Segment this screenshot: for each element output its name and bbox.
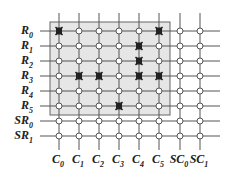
crosspoint-node-icon: [56, 43, 62, 49]
crosspoint-node-icon: [96, 43, 102, 49]
crosspoint-node-icon: [56, 133, 62, 139]
crosspoint-node-icon: [76, 103, 82, 109]
shaded-region: [50, 22, 170, 115]
crosspoint-node-icon: [197, 88, 203, 94]
crosspoint-node-icon: [76, 43, 82, 49]
faulty-crosspoint-icon: [136, 72, 143, 80]
crosspoint-node-icon: [96, 103, 102, 109]
crosspoint-node-icon: [177, 43, 183, 49]
crosspoint-node-icon: [56, 88, 62, 94]
faulty-crosspoint-icon: [96, 72, 103, 80]
column-label: C0: [52, 152, 64, 169]
column-labels: C0C1C2C3C4C5SC0SC1: [52, 152, 208, 169]
crosspoint-node-icon: [156, 103, 162, 109]
crosspoint-node-icon: [197, 43, 203, 49]
crosspoint-node-icon: [156, 88, 162, 94]
crosspoint-node-icon: [177, 28, 183, 34]
crossbar-diagram: R0R1R2R3R4R5SR0SR1 C0C1C2C3C4C5SC0SC1: [0, 0, 230, 179]
crosspoint-node-icon: [56, 118, 62, 124]
crosspoint-node-icon: [56, 58, 62, 64]
crosspoint-node-icon: [197, 118, 203, 124]
faulty-crosspoint-icon: [76, 72, 83, 80]
crosspoint-node-icon: [156, 58, 162, 64]
column-label: C2: [92, 152, 104, 169]
crosspoint-node-icon: [177, 73, 183, 79]
row-label: SR1: [14, 128, 33, 145]
crosspoint-node-icon: [197, 133, 203, 139]
crosspoint-node-icon: [116, 28, 122, 34]
crosspoint-node-icon: [136, 133, 142, 139]
crosspoint-node-icon: [116, 133, 122, 139]
crosspoint-node-icon: [116, 118, 122, 124]
crosspoint-node-icon: [76, 58, 82, 64]
crosspoint-node-icon: [56, 73, 62, 79]
crosspoint-node-icon: [96, 133, 102, 139]
crosspoint-node-icon: [156, 118, 162, 124]
faulty-crosspoint-icon: [156, 72, 163, 80]
column-label: SC0: [170, 152, 189, 169]
crosspoint-node-icon: [76, 133, 82, 139]
column-label: C3: [112, 152, 124, 169]
crosspoint-node-icon: [177, 103, 183, 109]
row-labels: R0R1R2R3R4R5SR0SR1: [14, 23, 33, 145]
crosspoint-node-icon: [76, 28, 82, 34]
crosspoint-node-icon: [96, 58, 102, 64]
crosspoint-node-icon: [116, 58, 122, 64]
crosspoint-node-icon: [136, 88, 142, 94]
crosspoint-node-icon: [177, 133, 183, 139]
column-label: C1: [72, 152, 84, 169]
crosspoint-node-icon: [96, 118, 102, 124]
crosspoint-node-icon: [136, 28, 142, 34]
faulty-crosspoint-icon: [136, 42, 143, 50]
crosspoint-node-icon: [156, 43, 162, 49]
crosspoint-node-icon: [136, 118, 142, 124]
crosspoint-node-icon: [197, 73, 203, 79]
crosspoint-node-icon: [76, 118, 82, 124]
faulty-crosspoint-icon: [156, 27, 163, 35]
faulty-crosspoint-icon: [136, 57, 143, 65]
crosspoint-node-icon: [177, 58, 183, 64]
crosspoint-node-icon: [76, 88, 82, 94]
crosspoint-node-icon: [156, 133, 162, 139]
column-label: C5: [152, 152, 164, 169]
crosspoint-node-icon: [197, 58, 203, 64]
column-label: C4: [132, 152, 144, 169]
crosspoint-node-icon: [197, 28, 203, 34]
crosspoint-node-icon: [136, 103, 142, 109]
crosspoint-node-icon: [116, 43, 122, 49]
column-label: SC1: [190, 152, 209, 169]
faulty-crosspoint-icon: [116, 102, 123, 110]
faulty-crosspoint-icon: [56, 27, 63, 35]
crosspoint-node-icon: [56, 103, 62, 109]
crosspoint-node-icon: [177, 88, 183, 94]
crosspoint-node-icon: [116, 73, 122, 79]
crosspoint-node-icon: [116, 88, 122, 94]
crosspoint-node-icon: [177, 118, 183, 124]
crosspoint-node-icon: [96, 88, 102, 94]
crosspoint-node-icon: [96, 28, 102, 34]
crosspoint-node-icon: [197, 103, 203, 109]
